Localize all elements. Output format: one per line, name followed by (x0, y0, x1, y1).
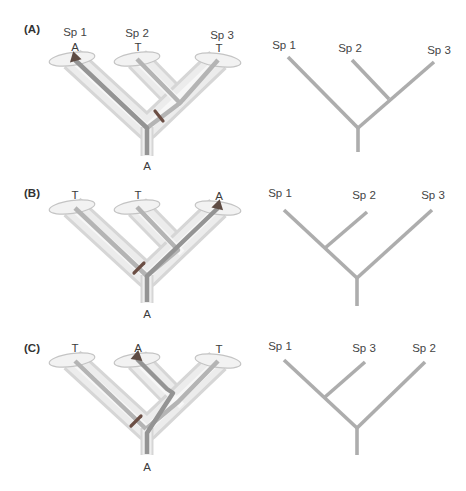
tip-label-3: Sp 2 (412, 342, 436, 354)
species-label-sp1: Sp 1 (63, 26, 87, 38)
allele-label-tip3: T (215, 343, 222, 355)
root-allele-label: A (143, 308, 151, 320)
branch-sp1 (288, 57, 358, 128)
allele-label-tip2: A (134, 342, 142, 354)
allele-label-tip1: T (71, 342, 78, 354)
gene-tree-line-diagram: Sp 1 Sp 2 Sp 3 (268, 187, 445, 306)
allele-label-tip1: A (71, 41, 79, 53)
figure-canvas: (A) Sp 1 Sp 2 Sp 3 A T T (0, 0, 466, 491)
root-allele-label: A (143, 160, 151, 172)
panel-label: (B) (24, 187, 40, 199)
allele-label-tip3: A (215, 190, 223, 202)
gene-tree-line-diagram: Sp 1 Sp 2 Sp 3 (272, 39, 451, 152)
tip-label-2: Sp 2 (352, 189, 376, 201)
branch-sp2 (357, 362, 425, 428)
figure: (A) Sp 1 Sp 2 Sp 3 A T T (0, 0, 466, 491)
species-label-sp3: Sp 3 (210, 29, 234, 41)
allele-label-tip3: T (215, 42, 222, 54)
tip-label-2: Sp 3 (352, 342, 376, 354)
tip-label-1: Sp 1 (268, 187, 292, 199)
tip-label-3: Sp 3 (421, 189, 445, 201)
panel-B: (B) T T A A (24, 187, 445, 320)
allele-label-tip1: T (71, 189, 78, 201)
panel-label: (A) (24, 23, 40, 35)
panel-A: (A) Sp 1 Sp 2 Sp 3 A T T (24, 23, 451, 172)
tip-label-3: Sp 3 (427, 44, 451, 56)
panel-label: (C) (24, 342, 40, 354)
tip-label-1: Sp 1 (268, 340, 292, 352)
root-allele-label: A (143, 461, 151, 473)
branch-sp3 (357, 210, 432, 278)
tip-label-2: Sp 2 (338, 42, 362, 54)
branch-sp2 (352, 60, 389, 99)
allele-label-tip2: T (134, 189, 141, 201)
tip-label-1: Sp 1 (272, 39, 296, 51)
species-label-sp2: Sp 2 (125, 27, 149, 39)
branch-sp3 (358, 62, 434, 128)
branch-sp2 (325, 212, 367, 248)
branch-sp1 (284, 210, 357, 278)
branch-sp3 (325, 362, 365, 397)
gene-tree-line-diagram: Sp 1 Sp 3 Sp 2 (268, 340, 436, 455)
branch-sp1 (284, 360, 357, 428)
allele-label-tip2: T (134, 41, 141, 53)
panel-C: (C) T A T A (24, 340, 436, 473)
